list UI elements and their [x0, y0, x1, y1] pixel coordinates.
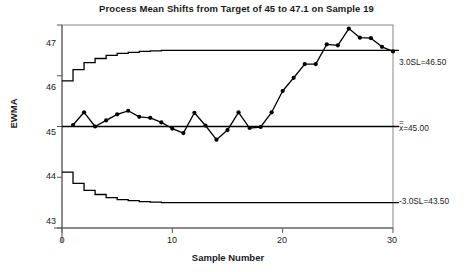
data-point: [303, 62, 307, 66]
data-point: [369, 36, 373, 40]
ewma-series-line: [73, 29, 393, 140]
data-point: [148, 116, 152, 120]
data-point: [391, 49, 395, 53]
data-point: [225, 128, 229, 132]
data-point: [126, 109, 130, 113]
data-point: [71, 123, 75, 127]
data-point: [159, 120, 163, 124]
lower-control-limit-line: [62, 172, 399, 202]
data-point: [181, 131, 185, 135]
data-point: [115, 112, 119, 116]
ewma-control-chart: Process Mean Shifts from Target of 45 to…: [0, 0, 473, 272]
data-point: [336, 43, 340, 47]
data-point: [281, 89, 285, 93]
data-point: [247, 126, 251, 130]
upper-control-limit-line: [62, 50, 399, 80]
data-point: [192, 111, 196, 115]
data-point: [347, 26, 351, 30]
data-point: [259, 125, 263, 129]
data-point: [82, 110, 86, 114]
data-point: [270, 110, 274, 114]
data-point: [236, 110, 240, 114]
data-point: [203, 123, 207, 127]
data-point: [292, 76, 296, 80]
data-point: [214, 138, 218, 142]
data-point: [314, 62, 318, 66]
data-point: [137, 115, 141, 119]
data-point: [380, 45, 384, 49]
plot-area: [0, 0, 473, 272]
data-point: [325, 42, 329, 46]
data-point: [358, 36, 362, 40]
data-point: [93, 124, 97, 128]
data-point: [170, 126, 174, 130]
data-point: [104, 118, 108, 122]
